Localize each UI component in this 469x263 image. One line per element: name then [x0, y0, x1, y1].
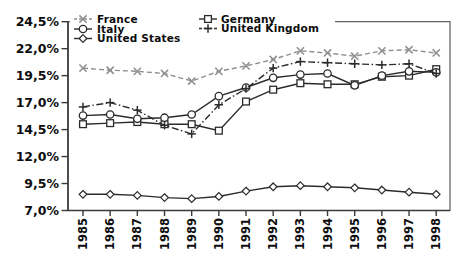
- x-tick-label: 1987: [130, 218, 144, 250]
- y-tick-label: 17,0%: [16, 95, 60, 110]
- x-tick-label: 1996: [375, 218, 389, 250]
- y-tick-label: 24,5%: [16, 14, 60, 29]
- line-chart: 24,5%22,0%19,5%17,0%14,5%12,0%9,5%7,0%19…: [0, 0, 469, 263]
- x-tick-label: 1988: [158, 218, 172, 250]
- legend: FranceItalyUnited StatesGermanyUnited Ki…: [70, 8, 335, 44]
- y-tick-label: 14,5%: [16, 122, 60, 137]
- chart-figure: 24,5%22,0%19,5%17,0%14,5%12,0%9,5%7,0%19…: [0, 0, 469, 263]
- x-tick-label: 1993: [293, 218, 307, 250]
- y-tick-label: 19,5%: [16, 68, 60, 83]
- legend-label: United Kingdom: [221, 22, 319, 34]
- x-tick-label: 1989: [185, 218, 199, 250]
- legend-label: United States: [97, 32, 181, 44]
- x-tick-label: 1992: [266, 218, 280, 250]
- x-tick-label: 1998: [429, 218, 443, 250]
- x-tick-label: 1991: [239, 218, 253, 250]
- x-tick-label: 1997: [402, 218, 416, 250]
- y-tick-label: 22,0%: [16, 41, 60, 56]
- x-tick-label: 1985: [76, 218, 90, 250]
- y-tick-label: 7,0%: [24, 203, 59, 218]
- y-tick-label: 12,0%: [16, 149, 60, 164]
- x-tick-label: 1995: [348, 218, 362, 250]
- y-tick-label: 9,5%: [24, 176, 59, 191]
- x-tick-label: 1994: [321, 218, 335, 250]
- x-tick-label: 1990: [212, 218, 226, 250]
- x-tick-label: 1986: [103, 218, 117, 250]
